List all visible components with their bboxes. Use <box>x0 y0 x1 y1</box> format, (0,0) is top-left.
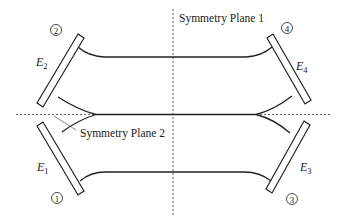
symmetry-plane-2-leader <box>54 116 76 130</box>
symmetry-plane-1-label: Symmetry Plane 1 <box>179 12 264 25</box>
svg-text:1: 1 <box>55 194 60 204</box>
port-number-3: 3 <box>287 194 298 205</box>
svg-text:2: 2 <box>54 26 59 36</box>
electrode-label-e3: E3 <box>299 160 312 176</box>
electrode-label-e1: E1 <box>36 160 49 176</box>
port-number-4: 4 <box>282 23 293 34</box>
electrode-plate-e1 <box>37 122 84 195</box>
electrode-symmetry-diagram: Symmetry Plane 1 Symmetry Plane 2 E2 E1 … <box>0 0 346 224</box>
inner-right-upper-curve <box>256 96 292 115</box>
symmetry-plane-2-label: Symmetry Plane 2 <box>80 127 165 140</box>
electrode-label-e4: E4 <box>295 59 308 75</box>
inner-left-upper-curve <box>58 97 96 115</box>
svg-text:4: 4 <box>285 24 290 34</box>
bottom-boundary-curve <box>80 172 271 181</box>
electrode-label-e2: E2 <box>35 55 48 71</box>
inner-right-lower-curve <box>256 115 290 134</box>
port-number-1: 1 <box>52 193 63 204</box>
port-number-2: 2 <box>51 25 62 36</box>
top-boundary-curve <box>78 47 272 57</box>
svg-text:3: 3 <box>290 195 295 205</box>
